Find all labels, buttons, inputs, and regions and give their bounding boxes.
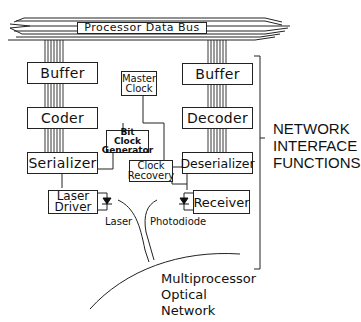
photodiode-icon xyxy=(179,198,189,204)
receiver-block: Receiver xyxy=(193,190,250,214)
laser-diode-icon xyxy=(102,198,112,204)
left-bus-bundle xyxy=(45,40,63,152)
processor-data-bus-label: Processor Data Bus xyxy=(77,22,207,34)
deserializer-block: Deserializer xyxy=(182,152,253,174)
serializer-block: Serializer xyxy=(27,152,98,174)
clock-recovery-block: Clock Recovery xyxy=(129,160,173,182)
laser-label: Laser xyxy=(105,217,132,227)
network-interface-functions-label: NETWORK INTERFACE FUNCTIONS xyxy=(273,120,361,171)
rx-buffer-block: Buffer xyxy=(182,63,253,85)
coder-block: Coder xyxy=(27,107,98,129)
master-clock-block: Master Clock xyxy=(121,71,157,96)
multiprocessor-optical-network-label: Multiprocessor Optical Network xyxy=(161,271,256,319)
laser-driver-block: Laser Driver xyxy=(48,190,98,214)
tx-buffer-block: Buffer xyxy=(27,62,98,84)
right-bus-bundle xyxy=(208,40,226,152)
bit-clock-generator-block: Bit Clock Generator xyxy=(106,130,149,153)
photodiode-label: Photodiode xyxy=(150,217,206,227)
decoder-block: Decoder xyxy=(182,107,253,129)
